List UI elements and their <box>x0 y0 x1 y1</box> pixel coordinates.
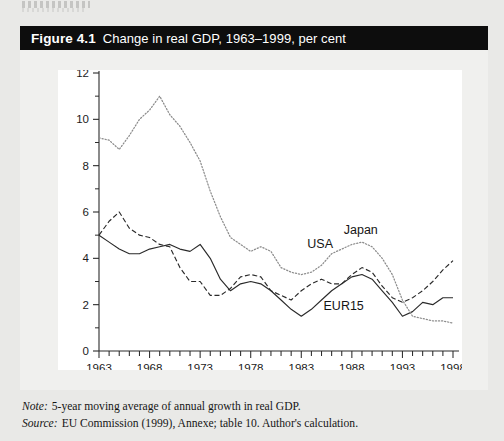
y-tick-label: 10 <box>76 113 89 125</box>
x-tick-label: 1983 <box>288 362 314 370</box>
x-tick-label: 1978 <box>238 362 264 370</box>
y-tick-label: 8 <box>83 160 89 172</box>
figure-title-bar: Figure 4.1 Change in real GDP, 1963–1999… <box>20 26 488 50</box>
x-tick-label: 1973 <box>187 362 213 370</box>
y-tick-label: 12 <box>76 70 89 79</box>
source-text: EU Commission (1999), Annexe; table 10. … <box>62 417 358 430</box>
x-tick-label: 1968 <box>137 362 163 370</box>
series-label-eur15: EUR15 <box>324 299 364 313</box>
x-tick-label: 1998 <box>440 362 462 370</box>
x-tick-label: 1988 <box>339 362 365 370</box>
note-line: Note:5-year moving average of annual gro… <box>22 398 488 415</box>
plot-area-background: 0246810121963196819731978198319881993199… <box>20 50 488 390</box>
x-tick-label: 1993 <box>390 362 416 370</box>
source-line: Source:EU Commission (1999), Annexe; tab… <box>22 415 488 432</box>
series-line-eur15 <box>99 235 453 316</box>
series-label-usa: USA <box>307 237 333 251</box>
y-tick-label: 6 <box>83 206 89 218</box>
note-text: 5-year moving average of annual growth i… <box>52 400 301 413</box>
figure-caption: Change in real GDP, 1963–1999, per cent <box>103 31 346 46</box>
figure-number: Figure 4.1 <box>31 31 96 46</box>
x-tick-label: 1963 <box>86 362 112 370</box>
series-label-japan: Japan <box>344 223 378 237</box>
figure-notes: Note:5-year moving average of annual gro… <box>22 398 488 432</box>
plot-canvas: 0246810121963196819731978198319881993199… <box>58 70 462 370</box>
page-top-text-fragment-second-line <box>22 8 84 12</box>
source-label: Source: <box>22 417 58 430</box>
line-chart: 0246810121963196819731978198319881993199… <box>58 70 462 370</box>
y-tick-label: 2 <box>83 299 89 311</box>
series-line-japan <box>99 96 453 323</box>
figure-container: Figure 4.1 Change in real GDP, 1963–1999… <box>20 26 488 418</box>
y-tick-label: 0 <box>83 345 89 357</box>
page-top-text-fragment <box>22 1 90 8</box>
y-tick-label: 4 <box>83 252 90 264</box>
note-label: Note: <box>22 400 48 413</box>
series-line-usa <box>99 212 453 302</box>
